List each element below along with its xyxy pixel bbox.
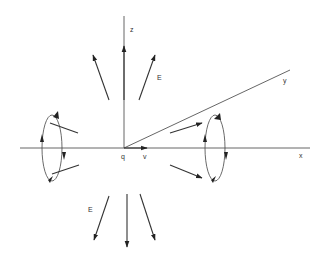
x-axis-label: x: [299, 152, 303, 159]
lower-electric-field: E: [88, 194, 155, 247]
y-axis: [124, 70, 290, 148]
field-arrow-left-upper: [50, 123, 78, 133]
field-arrow-upper-left: [93, 55, 109, 100]
moving-charge-field-diagram: z y x q v E E: [0, 0, 324, 260]
loop-arrowhead-icon: [48, 176, 53, 183]
left-magnetic-loop: [40, 111, 79, 183]
field-arrow-lower-left: [94, 196, 109, 240]
velocity-label: v: [143, 153, 147, 160]
z-axis-label: z: [130, 26, 134, 33]
lower-field-label: E: [88, 206, 93, 213]
loop-arrowhead-icon: [40, 134, 44, 142]
charge-label: q: [121, 153, 125, 161]
loop-arrowhead-icon: [62, 152, 66, 160]
loop-arrowhead-icon: [211, 176, 216, 183]
y-axis-label: y: [283, 77, 287, 85]
field-arrow-lower-right: [140, 194, 155, 240]
field-arrow-left-lower: [52, 165, 79, 174]
upper-electric-field: E: [93, 46, 162, 100]
loop-arrowhead-icon: [214, 113, 221, 120]
field-arrow-upper-right: [139, 55, 155, 100]
upper-field-label: E: [157, 74, 162, 81]
loop-arrowhead-icon: [53, 111, 59, 119]
field-arrow-right-lower: [170, 165, 202, 178]
loop-arrowhead-icon: [203, 134, 207, 142]
